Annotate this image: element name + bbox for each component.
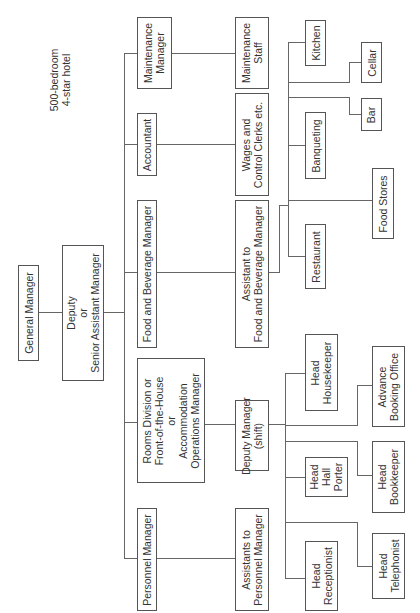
connector [124, 144, 137, 145]
node-label: Banqueting [310, 119, 322, 172]
node-label: Accountant [141, 118, 153, 171]
node-head-receptionist: Head Receptionist [305, 541, 338, 611]
connector [157, 272, 235, 273]
node-cellar: Cellar [361, 42, 382, 83]
node-label: Wages and Control Clerks etc. [240, 101, 264, 187]
node-bar: Bar [361, 98, 382, 131]
connector [285, 477, 306, 478]
node-personnel-manager: Personnel Manager [137, 508, 157, 611]
connector [288, 42, 305, 43]
node-label: Food and Beverage Manager [141, 206, 153, 343]
connector [288, 200, 376, 201]
node-head-bookkeeper: Head Bookkeeper [372, 441, 405, 513]
connector [288, 42, 289, 257]
connector [285, 522, 357, 523]
connector [157, 144, 235, 145]
node-accountant: Accountant [137, 113, 157, 176]
node-banqueting: Banqueting [305, 112, 326, 179]
connector [124, 272, 137, 273]
node-label: Assistant to Food and Beverage Manager [240, 206, 264, 343]
connector [357, 475, 372, 476]
connector [124, 558, 137, 559]
node-label: Food Stores [377, 175, 389, 232]
node-label: Deputy or Senior Assistant Manager [65, 253, 101, 373]
node-label: Deputy Manager (shift) [240, 397, 264, 475]
node-fb-manager: Food and Beverage Manager [137, 200, 157, 348]
connector [357, 441, 358, 475]
connector [205, 424, 235, 425]
node-deputy-manager-shift: Deputy Manager (shift) [235, 400, 269, 471]
hotel-size-note: 500-bedroom 4-star hotel [48, 45, 72, 115]
connector [285, 578, 306, 579]
node-maintenance-manager: Maintenance Manager [137, 17, 172, 89]
connector [288, 82, 349, 83]
node-label: Head Receptionist [310, 547, 334, 605]
node-wages-clerks: Wages and Control Clerks etc. [235, 93, 269, 196]
connector [357, 385, 358, 426]
node-head-hall-porter: Head Hall Porter [305, 457, 348, 497]
connector [349, 114, 361, 115]
connector [288, 97, 349, 98]
node-kitchen: Kitchen [305, 20, 326, 66]
connector [357, 522, 358, 566]
node-deputy: Deputy or Senior Assistant Manager [62, 245, 104, 381]
node-label: General Manager [23, 272, 35, 354]
connector [38, 312, 62, 313]
node-assistant-fb: Assistant to Food and Beverage Manager [235, 200, 269, 348]
connector [279, 205, 280, 273]
connector [157, 558, 235, 559]
node-rooms-division: Rooms Division or Front-of-the-House or … [137, 358, 205, 483]
connector [285, 441, 357, 442]
node-label: Personnel Manager [141, 514, 153, 606]
connector [285, 373, 306, 374]
node-advance-booking: Advance Booking Office [372, 346, 405, 427]
node-label: Assistants to Personnel Manager [240, 514, 264, 606]
node-food-stores: Food Stores [372, 168, 394, 239]
node-head-housekeeper: Head Housekeeper [305, 334, 338, 411]
node-label: Bar [366, 106, 378, 122]
connector [288, 145, 305, 146]
connector [285, 425, 357, 426]
node-general-manager: General Manager [18, 265, 39, 361]
node-label: Maintenance Staff [240, 23, 264, 83]
connector [357, 566, 372, 567]
node-label: Cellar [366, 49, 378, 76]
connector [357, 385, 372, 386]
connector [124, 53, 125, 559]
connector [279, 205, 288, 206]
node-label: Advance Booking Office [377, 352, 401, 420]
connector [103, 312, 124, 313]
node-label: Rooms Division or Front-of-the-House or … [141, 373, 201, 469]
node-label: Maintenance Manager [143, 23, 167, 83]
connector [124, 53, 137, 54]
connector [171, 53, 235, 54]
node-label: Restaurant [310, 231, 322, 282]
node-label: Head Bookkeeper [377, 449, 401, 505]
connector [349, 62, 361, 63]
node-head-telephonist: Head Telephonist [372, 533, 405, 599]
connector [349, 62, 350, 83]
connector [268, 424, 285, 425]
node-restaurant: Restaurant [305, 224, 326, 289]
connector [124, 422, 137, 423]
node-label: Head Telephonist [377, 539, 401, 592]
connector [349, 97, 350, 114]
connector [268, 272, 279, 273]
connector [288, 256, 305, 257]
node-assistants-personnel: Assistants to Personnel Manager [235, 508, 269, 611]
node-maintenance-staff: Maintenance Staff [235, 17, 269, 89]
connector [285, 373, 286, 579]
node-label: Kitchen [310, 25, 322, 60]
node-label: Head Housekeeper [310, 341, 334, 403]
node-label: Head Hall Porter [309, 463, 345, 492]
